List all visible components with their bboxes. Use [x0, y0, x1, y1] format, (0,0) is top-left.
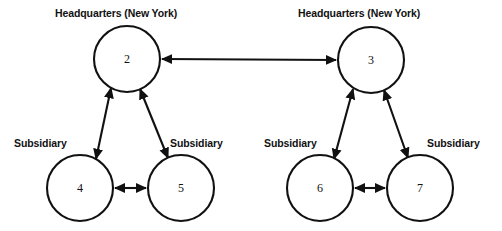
node-3-label: Headquarters (New York): [298, 7, 420, 19]
node-2-number: 2: [124, 52, 130, 66]
edge-2-3: [162, 59, 336, 60]
node-7-number: 7: [417, 181, 423, 195]
node-6-label: Subsidiary: [264, 137, 317, 149]
node-2[interactable]: 2: [94, 26, 160, 92]
node-6-number: 6: [317, 181, 323, 195]
node-4[interactable]: 4: [47, 155, 113, 221]
node-4-number: 4: [77, 181, 83, 195]
edge-3-6: [334, 89, 353, 159]
edge-2-4: [96, 88, 111, 159]
node-5[interactable]: 5: [148, 155, 214, 221]
node-5-label: Subsidiary: [170, 137, 223, 149]
edge-2-5: [140, 89, 168, 158]
node-2-label: Headquarters (New York): [55, 7, 177, 19]
diagram-graphics: 2 3 4 5 6 7: [0, 0, 502, 231]
node-5-number: 5: [178, 181, 184, 195]
node-3-number: 3: [368, 53, 374, 67]
node-3[interactable]: 3: [338, 27, 404, 93]
node-6[interactable]: 6: [287, 155, 353, 221]
node-4-label: Subsidiary: [14, 137, 67, 149]
diagram-canvas: 2 3 4 5 6 7 Headquarters (New York) Head…: [0, 0, 502, 231]
edge-3-7: [384, 90, 408, 158]
node-7-label: Subsidiary: [427, 137, 480, 149]
node-7[interactable]: 7: [387, 155, 453, 221]
